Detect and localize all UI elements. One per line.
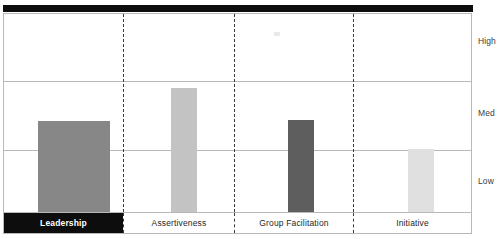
y-axis-label-high: High bbox=[478, 37, 496, 46]
category-axis-strip: Leadership Assertiveness Group Facilitat… bbox=[3, 213, 472, 234]
chart-top-rule bbox=[3, 5, 473, 12]
category-label-group-facilitation[interactable]: Group Facilitation bbox=[234, 213, 353, 233]
y-axis-labels: High Med Low bbox=[478, 13, 504, 213]
scan-artifact bbox=[274, 32, 280, 36]
category-label-initiative[interactable]: Initiative bbox=[353, 213, 471, 233]
category-label-assertiveness[interactable]: Assertiveness bbox=[123, 213, 234, 233]
y-axis-label-med: Med bbox=[478, 109, 495, 118]
category-divider-2 bbox=[234, 14, 235, 212]
bar-initiative bbox=[408, 149, 434, 212]
gridline-high bbox=[4, 81, 471, 82]
bar-group-facilitation bbox=[288, 120, 314, 212]
category-label-leadership[interactable]: Leadership bbox=[4, 213, 123, 233]
bar-assertiveness bbox=[171, 88, 197, 212]
category-divider-3 bbox=[353, 14, 354, 212]
bar-chart: High Med Low Leadership Assertiveness Gr… bbox=[0, 0, 504, 239]
category-divider-1 bbox=[123, 14, 124, 212]
bar-leadership bbox=[38, 121, 110, 212]
plot-area bbox=[3, 13, 472, 213]
y-axis-label-low: Low bbox=[478, 177, 494, 186]
